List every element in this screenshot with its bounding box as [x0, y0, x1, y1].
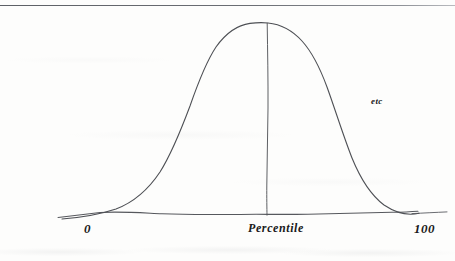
- figure-normal-distribution: 0 Percentile 100 etc: [0, 0, 455, 261]
- bell-curve-path: [62, 23, 419, 219]
- axis-label-hundred: 100: [414, 222, 435, 235]
- axis-label-zero: 0: [84, 222, 91, 235]
- median-vertical-line: [267, 23, 268, 215]
- annotation-etc: etc: [371, 97, 383, 106]
- baseline-axis: [58, 211, 418, 217]
- axis-label-percentile: Percentile: [248, 222, 304, 234]
- bell-curve-drawing: [0, 0, 455, 261]
